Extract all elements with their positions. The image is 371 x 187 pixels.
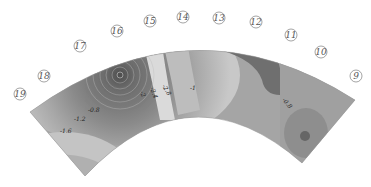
marker-12: 12 xyxy=(250,16,262,28)
contour-label: -1.2 xyxy=(74,115,86,122)
marker-15: 15 xyxy=(144,15,156,27)
marker-17: 17 xyxy=(74,40,86,52)
svg-text:9: 9 xyxy=(353,71,359,81)
svg-text:11: 11 xyxy=(285,30,296,40)
svg-text:13: 13 xyxy=(213,13,225,23)
marker-19: 19 xyxy=(14,88,26,100)
svg-text:14: 14 xyxy=(177,12,189,22)
marker-11: 11 xyxy=(285,29,297,41)
minimum-point-right xyxy=(300,131,310,141)
marker-18: 18 xyxy=(38,70,50,82)
svg-text:12: 12 xyxy=(250,17,262,27)
svg-text:15: 15 xyxy=(144,16,156,26)
marker-14: 14 xyxy=(177,11,189,23)
contour-diagram: -0.8 -1.2 -1.6 -2 -2.4 -2.8 -1 -0.8 9 10… xyxy=(0,0,371,187)
contour-label: -1 xyxy=(190,84,196,91)
svg-text:18: 18 xyxy=(38,71,50,81)
marker-9: 9 xyxy=(350,70,362,82)
marker-13: 13 xyxy=(213,12,225,24)
marker-10: 10 xyxy=(315,46,327,58)
svg-text:10: 10 xyxy=(315,47,327,57)
marker-16: 16 xyxy=(111,25,123,37)
svg-text:16: 16 xyxy=(111,26,123,36)
svg-text:17: 17 xyxy=(74,41,86,51)
contour-label: -1.6 xyxy=(60,127,72,134)
contour-label: -0.8 xyxy=(88,106,100,113)
svg-text:19: 19 xyxy=(14,89,26,99)
contour-field xyxy=(0,0,371,187)
